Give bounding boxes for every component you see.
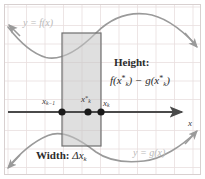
grid-lines: [4, 4, 201, 175]
height-formula-f: f(x: [110, 74, 122, 86]
axis-label-x: x: [188, 119, 192, 128]
point-x-star-k: [84, 108, 91, 115]
area-between-curves-figure: y = f(x) y = g(x) Height: f(x*k) − g(x*k…: [0, 0, 205, 179]
point-x-k-minus-1: [58, 108, 65, 115]
tick-label-x-k: xk: [103, 99, 109, 109]
height-formula-minus: ) −: [129, 74, 146, 86]
curve-label-g: y = g(x): [133, 148, 165, 158]
curve-label-f-text: y = f(x): [23, 17, 53, 28]
width-callout-title: Width:: [36, 149, 69, 161]
tick-left-sub: k−1: [46, 100, 55, 106]
height-callout-formula: f(x*k) − g(x*k): [110, 75, 170, 87]
height-callout-title: Height:: [114, 57, 149, 68]
tick-label-x-star-k: x*k: [81, 95, 91, 105]
curve-g-arrow-left: [8, 155, 20, 168]
height-callout-title-text: Height:: [114, 56, 149, 68]
width-callout-formula: Δx: [72, 149, 83, 161]
height-formula-g: g(x: [145, 74, 159, 86]
representative-rectangle: [62, 33, 101, 146]
curve-f-arrow-right: [185, 33, 197, 47]
width-callout-formula-sub: k: [84, 155, 87, 162]
height-formula-close: ): [166, 74, 170, 86]
curve-label-g-text: y = g(x): [133, 147, 165, 158]
point-x-k: [97, 108, 104, 115]
curve-label-f: y = f(x): [23, 18, 53, 28]
tick-label-x-k-minus-1: xk−1: [42, 97, 55, 107]
axis-label-x-text: x: [188, 118, 192, 128]
width-callout: Width: Δxk: [36, 150, 87, 162]
curve-g-arrow-right: [185, 131, 197, 144]
tick-right-sub: k: [107, 102, 109, 108]
tick-star-sub: k: [88, 98, 90, 104]
